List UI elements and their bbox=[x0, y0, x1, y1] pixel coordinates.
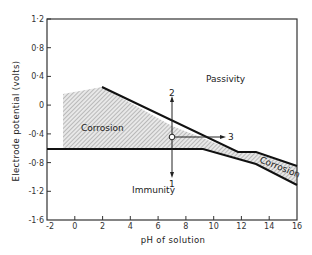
x-axis-tick-labels: -2 0 2 4 6 8 10 12 14 16 bbox=[46, 222, 302, 231]
x-tick-label: 4 bbox=[128, 222, 133, 231]
x-tick-label: 0 bbox=[72, 222, 77, 231]
x-tick-label: 16 bbox=[292, 222, 302, 231]
x-tick-label: 12 bbox=[236, 222, 246, 231]
y-tick-label: 1·2 bbox=[31, 15, 44, 24]
x-axis-ticks bbox=[75, 216, 269, 220]
y-tick-label: 0·4 bbox=[31, 72, 44, 81]
y-tick-label: -1·6 bbox=[28, 216, 44, 225]
pourbaix-diagram: 1·2 0·8 0·4 0 -0·4 -0·8 -1·2 -1·6 -2 0 2… bbox=[0, 0, 312, 255]
x-tick-label: 6 bbox=[156, 222, 161, 231]
arrow-label-2: 2 bbox=[169, 88, 175, 98]
x-tick-label: 14 bbox=[264, 222, 274, 231]
x-tick-label: -2 bbox=[46, 222, 54, 231]
y-tick-label: -0·8 bbox=[28, 159, 44, 168]
region-label-corrosion-left: Corrosion bbox=[81, 123, 124, 133]
y-tick-label: -1·2 bbox=[28, 187, 44, 196]
y-tick-label: -0·4 bbox=[28, 130, 44, 139]
y-tick-label: 0·8 bbox=[31, 44, 44, 53]
x-tick-label: 2 bbox=[100, 222, 105, 231]
x-tick-label: 8 bbox=[183, 222, 188, 231]
x-tick-label: 10 bbox=[209, 222, 219, 231]
y-axis-title: Electrode potential (volts) bbox=[11, 60, 21, 181]
region-label-immunity: Immunity bbox=[132, 185, 176, 195]
y-tick-label: 0 bbox=[39, 101, 44, 110]
corrosion-region-acidic bbox=[63, 87, 172, 149]
arrow-label-3: 3 bbox=[228, 132, 234, 142]
x-axis-title: pH of solution bbox=[141, 235, 206, 245]
y-axis-tick-labels: 1·2 0·8 0·4 0 -0·4 -0·8 -1·2 -1·6 bbox=[28, 15, 44, 225]
region-label-passivity: Passivity bbox=[206, 74, 246, 84]
marker-point bbox=[169, 134, 175, 140]
